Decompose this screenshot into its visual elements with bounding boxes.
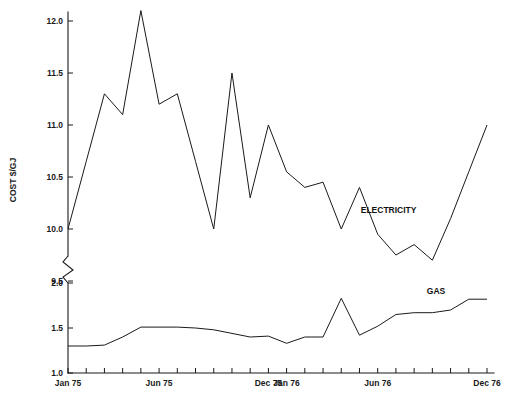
x-tick-marks [68,368,487,373]
series-line-gas [68,298,487,346]
x-tick-label: Jan 75 [55,378,82,388]
y-tick-labels: 9.510.010.511.011.512.01.01.52.0 [46,16,63,378]
x-tick-label: Jan 76 [273,378,300,388]
x-tick-labels: Jan 75Jun 75Dec 75Jan 76Jun 76Dec 76 [55,378,501,388]
y-tick-marks [68,21,73,373]
y-axis: 9.510.010.511.011.512.01.01.52.0 COST $/… [8,12,73,378]
x-axis: Jan 75Jun 75Dec 75Jan 76Jun 76Dec 76 [55,368,501,388]
x-tick-label: Jun 75 [146,378,173,388]
y-tick-label: 1.0 [51,368,63,378]
y-tick-label: 11.0 [47,120,63,130]
y-tick-label: 1.5 [51,323,63,333]
y-axis-title: COST $/GJ [8,158,18,203]
energy-cost-line-chart: 9.510.010.511.011.512.01.01.52.0 COST $/… [0,0,509,404]
series-line-electricity [68,11,487,261]
y-tick-label: 11.5 [47,68,63,78]
y-tick-label: 2.0 [51,278,63,288]
series-label-gas: GAS [427,286,446,296]
y-tick-label: 10.5 [46,172,63,182]
y-tick-label: 10.0 [46,224,63,234]
x-tick-label: Dec 76 [473,378,501,388]
data-series-group [68,11,487,346]
series-label-electricity: ELECTRICITY [361,205,417,215]
chart-container: 9.510.010.511.011.512.01.01.52.0 COST $/… [0,0,509,404]
axis-break-icon [63,256,73,283]
x-tick-label: Jun 76 [364,378,391,388]
y-tick-label: 12.0 [46,16,63,26]
